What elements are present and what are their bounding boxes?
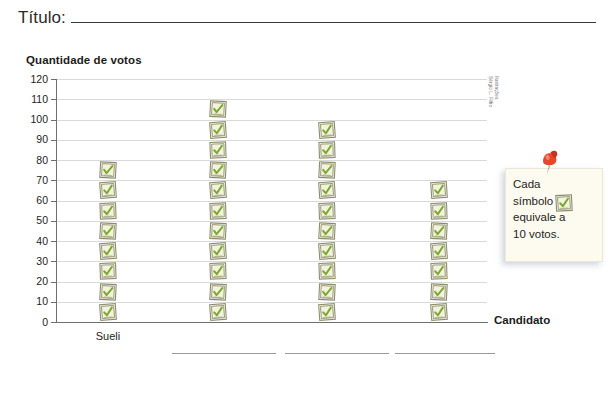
vote-symbol [98,261,118,281]
vote-symbol [98,160,118,180]
legend-text: Cadasímboloequivale a10 votos. [513,176,599,242]
vote-symbol [429,241,449,261]
vote-symbol [208,282,228,302]
vote-symbol [208,99,228,119]
vote-symbol [208,180,228,200]
y-axis-tick [51,160,57,161]
vote-symbol [98,180,118,200]
vote-symbol [208,160,228,180]
vote-symbol [208,302,228,322]
credit-line-2: Sérgio L. Filho [488,76,493,107]
y-axis-tick [51,261,57,262]
vote-symbol [317,140,337,160]
pictogram-column [424,79,454,322]
y-axis-tick [51,79,57,80]
legend-line-4: 10 votos. [513,228,560,240]
vote-symbol [429,180,449,200]
x-axis-label: Candidato [494,314,550,326]
y-axis-tick [51,120,57,121]
y-axis-tick [51,282,57,283]
vote-symbol [208,201,228,221]
vote-symbol [429,282,449,302]
vote-symbol [98,221,118,241]
legend-line-3: equivale a [513,211,565,223]
vote-symbol [429,201,449,221]
y-axis-tick [51,322,57,323]
y-axis-tick [51,180,57,181]
y-axis-tick [51,241,57,242]
y-axis-tick [51,221,57,222]
y-axis-tick-label: 70 [16,175,48,186]
worksheet-page: Título: Quantidade de votos 120110100908… [0,0,611,396]
y-axis-tick-label: 60 [16,195,48,206]
vote-symbol [429,261,449,281]
answer-blank-rule[interactable] [395,353,495,354]
legend-vote-symbol [554,193,570,209]
vote-symbol [208,261,228,281]
vote-symbol [98,201,118,221]
vote-symbol [98,282,118,302]
y-axis-tick-label: 10 [16,296,48,307]
vote-symbol [208,221,228,241]
y-axis-tick-label: 110 [16,94,48,105]
y-axis-tick [51,140,57,141]
y-axis-tick-label: 50 [16,215,48,226]
vote-symbol [317,241,337,261]
y-axis-tick-label: 20 [16,276,48,287]
vote-symbol [98,302,118,322]
y-axis-tick-label: 30 [16,256,48,267]
answer-blank-rule[interactable] [285,353,389,354]
vote-symbol [429,302,449,322]
y-axis-tick-label: 0 [16,317,48,328]
vote-symbol [208,120,228,140]
vote-symbol [317,302,337,322]
vote-symbol [317,282,337,302]
pushpin-icon [537,148,563,176]
legend-line-2: símbolo [513,195,553,207]
illustration-credit: Ilustrações:Sérgio L. Filho [488,76,499,130]
vote-symbol [208,241,228,261]
vote-symbol [317,201,337,221]
y-axis-tick [51,99,57,100]
y-axis-tick-label: 40 [16,236,48,247]
vote-symbol [429,221,449,241]
y-axis-tick-label: 100 [16,114,48,125]
vote-symbol [98,241,118,261]
y-axis-tick [51,302,57,303]
pictogram-column [93,79,123,322]
y-axis-tick-label: 120 [16,74,48,85]
pictogram-column [312,79,342,322]
legend-line-1: Cada [513,178,541,190]
vote-symbol [317,180,337,200]
y-axis-tick-label: 90 [16,134,48,145]
pictogram-column [203,79,233,322]
vote-symbol [317,261,337,281]
y-axis-tick-label: 80 [16,155,48,166]
vote-symbol [317,120,337,140]
y-axis-tick [51,201,57,202]
vote-symbol [208,140,228,160]
credit-line-1: Ilustrações: [494,76,499,101]
answer-blank-rule[interactable] [172,353,276,354]
x-axis-line [56,322,488,323]
vote-symbol [317,160,337,180]
vote-symbol [317,221,337,241]
x-category-label: Sueli [63,330,153,342]
